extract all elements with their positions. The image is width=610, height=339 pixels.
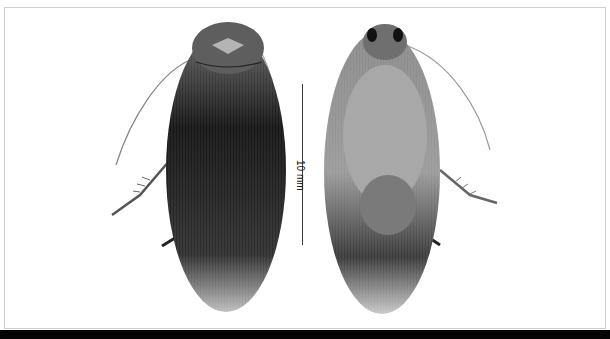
bottom-border [0,330,610,339]
hind-leg [112,160,170,215]
abdomen-underside [360,175,416,235]
cerci [162,238,175,246]
dorsal-specimen [112,22,286,312]
ventral-specimen [324,24,497,314]
hind-leg-v [440,170,497,203]
figure-frame: 10 mm [0,0,610,339]
scale-bar-label: 10 mm [295,160,306,191]
